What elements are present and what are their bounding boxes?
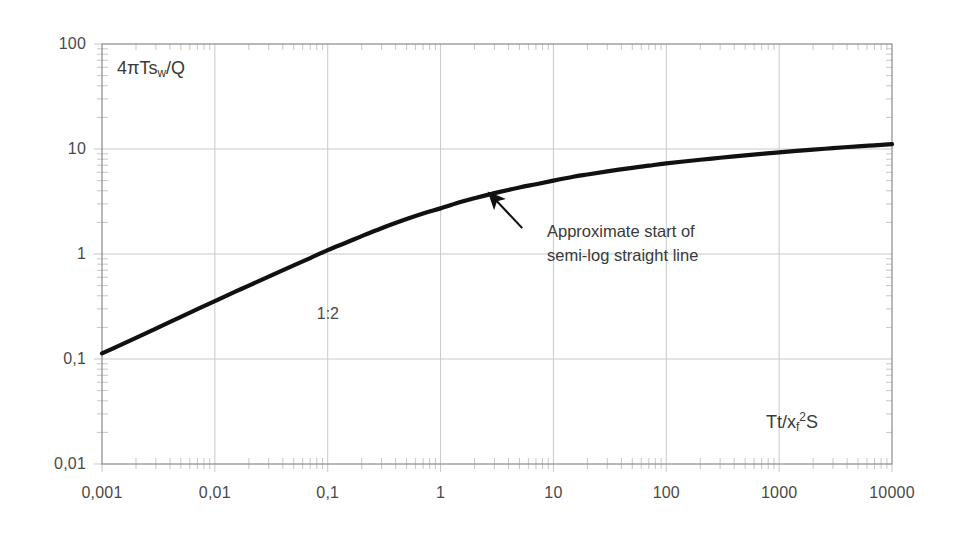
chart-figure: 0,010,1110100 0,0010,010,111010010001000… <box>0 0 966 543</box>
chart-canvas <box>0 0 966 543</box>
y-tick-label: 0,1 <box>63 350 86 368</box>
x-axis-title-post: S <box>806 412 818 432</box>
x-axis-title-pre: Tt/x <box>766 412 796 432</box>
semi-log-note-line1: Approximate start of <box>547 220 698 244</box>
semi-log-note-line2: semi-log straight line <box>547 244 698 268</box>
x-tick-label: 0,01 <box>199 484 231 502</box>
x-tick-label: 10 <box>544 484 562 502</box>
y-axis-title-sub: w <box>157 66 166 80</box>
x-tick-label: 100 <box>653 484 680 502</box>
y-tick-label: 1 <box>77 245 86 263</box>
x-tick-label: 10000 <box>869 484 915 502</box>
slope-ratio-label: 1:2 <box>317 305 339 323</box>
y-axis-title-pre: 4πTs <box>117 58 157 78</box>
x-axis-title: Tt/xf2S <box>766 412 818 433</box>
y-axis-title: 4πTsw/Q <box>117 58 185 79</box>
semi-log-note: Approximate start of semi-log straight l… <box>547 220 698 268</box>
x-axis-title-sup: 2 <box>799 410 806 424</box>
y-tick-label: 10 <box>68 140 86 158</box>
y-axis-title-post: /Q <box>166 58 185 78</box>
x-tick-label: 0,1 <box>316 484 339 502</box>
x-tick-label: 1000 <box>761 484 797 502</box>
x-tick-label: 1 <box>436 484 445 502</box>
x-tick-label: 0,001 <box>81 484 122 502</box>
y-tick-label: 0,01 <box>54 455 86 473</box>
y-tick-label: 100 <box>59 35 86 53</box>
